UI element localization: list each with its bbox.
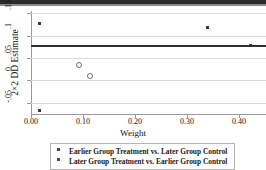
data-point-filled-square — [38, 109, 41, 112]
gridline — [31, 13, 266, 14]
x-tick-label: 0.40 — [219, 118, 259, 126]
gridline — [31, 103, 266, 104]
x-axis-line — [31, 114, 266, 115]
y-tick — [27, 58, 31, 59]
gridline — [31, 36, 266, 37]
legend-label-later: Later Group Treatment vs. Earlier Group … — [69, 157, 227, 166]
gridline — [31, 58, 266, 59]
legend-marker-filled-square — [57, 158, 60, 161]
data-point-open-circle — [87, 73, 93, 79]
y-tick-label: .15 — [5, 0, 13, 26]
x-tick-label: 0.00 — [11, 118, 51, 126]
x-tick-label: 0.10 — [63, 118, 103, 126]
x-tick-label: 0.30 — [167, 118, 207, 126]
data-point-filled-square — [38, 22, 41, 25]
chart-figure: 2×2 DD Estimate -.050.05.1.15 0.000.100.… — [0, 0, 266, 170]
y-tick-label: .1 — [5, 23, 13, 49]
data-point-filled-square — [206, 26, 209, 29]
y-tick — [27, 36, 31, 37]
legend-marker-open-square — [57, 148, 60, 151]
x-axis-title: Weight — [0, 128, 266, 138]
top-edge-band-secondary — [0, 4, 266, 6]
y-tick — [27, 80, 31, 81]
reference-line — [31, 45, 266, 47]
gridline — [31, 80, 266, 81]
y-tick — [27, 103, 31, 104]
y-tick-label: -.05 — [5, 90, 13, 116]
legend: Earlier Group Treatment vs. Later Group … — [50, 143, 235, 170]
y-tick-label: 0 — [5, 67, 13, 93]
y-axis-line — [31, 11, 32, 114]
data-point-open-circle — [76, 62, 82, 68]
x-tick-label: 0.20 — [115, 118, 155, 126]
y-tick — [27, 13, 31, 14]
legend-label-earlier: Earlier Group Treatment vs. Later Group … — [69, 147, 227, 156]
